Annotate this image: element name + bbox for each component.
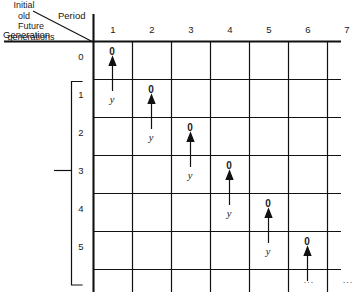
cell-zero-gen1-period2: 0 <box>143 84 159 95</box>
period-axis-title: Period <box>58 11 85 21</box>
generation-number-5: 5 <box>73 241 89 252</box>
cell-y-gen2-period2: y <box>143 132 159 143</box>
transfer-arrow-4 <box>226 171 233 205</box>
cell-zero-gen5-period6: 0 <box>299 236 315 247</box>
transfer-arrow-5 <box>265 209 272 243</box>
cell-zero-gen4-period5: 0 <box>260 198 276 209</box>
cell-y-gen4-period4: y <box>221 208 237 219</box>
period-header-2: 2 <box>142 24 162 35</box>
cell-zero-gen0-period1: 0 <box>104 46 120 57</box>
cell-y-gen5-period5: y <box>260 246 276 257</box>
cell-zero-gen3-period4: 0 <box>221 160 237 171</box>
period-header-5: 5 <box>259 24 279 35</box>
cell-y-gen3-period3: y <box>182 170 198 181</box>
cell-y-gen1-period1: y <box>104 94 120 105</box>
cell-zero-gen2-period3: 0 <box>182 122 198 133</box>
transfer-arrow-2 <box>148 95 155 129</box>
ellipsis-period-7: ... <box>338 275 358 285</box>
future-generations-bracket <box>54 82 82 286</box>
period-header-4: 4 <box>220 24 240 35</box>
generation-number-2: 2 <box>73 127 89 138</box>
ellipsis-period-6: ... <box>299 275 319 285</box>
overlapping-generations-diagram: Period Generation Initial old Future gen… <box>0 0 360 294</box>
transfer-arrow-3 <box>187 133 194 167</box>
generation-number-1: 1 <box>73 89 89 100</box>
transfer-arrow-1 <box>109 57 116 91</box>
diagram-lines <box>0 0 360 294</box>
generation-number-0: 0 <box>73 51 89 62</box>
generation-number-3: 3 <box>73 165 89 176</box>
period-header-7: 7 <box>337 24 357 35</box>
period-header-3: 3 <box>181 24 201 35</box>
generation-axis-title: Generation <box>3 30 50 40</box>
period-header-1: 1 <box>103 24 123 35</box>
period-header-6: 6 <box>298 24 318 35</box>
generation-number-4: 4 <box>73 203 89 214</box>
